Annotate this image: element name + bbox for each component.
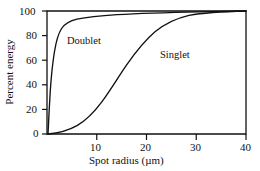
- x-tick-label-20: 20: [140, 141, 151, 153]
- curve-singlet: [48, 11, 246, 134]
- y-tick-label-80: 80: [26, 29, 37, 41]
- plot-area: Percent energy: [0, 0, 260, 171]
- x-tick-label-40: 40: [240, 141, 251, 153]
- x-axis-title: Spot radius (µm): [89, 154, 164, 166]
- y-axis-ticks: [42, 11, 47, 134]
- y-tick-label-60: 60: [26, 54, 37, 66]
- curve-label-doublet: Doublet: [67, 35, 101, 46]
- curve-label-singlet: Singlet: [160, 49, 190, 60]
- chart-figure: Percent energy 100 80 60 40 20 0 10 20 3…: [0, 0, 260, 171]
- curve-doublet: [48, 11, 246, 134]
- y-tick-label-100: 100: [19, 5, 36, 17]
- x-tick-label-10: 10: [90, 141, 101, 153]
- y-tick-label-20: 20: [26, 103, 37, 115]
- y-axis-title: Percent energy: [3, 39, 15, 105]
- x-axis-ticks: [97, 134, 246, 140]
- x-tick-label-30: 30: [190, 141, 201, 153]
- axis-frame: [47, 11, 246, 134]
- y-tick-label-0: 0: [33, 127, 39, 139]
- y-tick-label-40: 40: [26, 78, 37, 90]
